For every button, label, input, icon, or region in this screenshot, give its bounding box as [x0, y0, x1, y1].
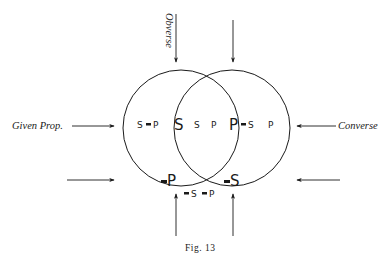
bottom-right-s: S — [230, 172, 240, 190]
big-s-label: S — [174, 116, 184, 134]
left-only-dash — [146, 123, 151, 126]
given-prop-label: Given Prop. — [12, 120, 63, 131]
converse-label: Converse — [338, 120, 378, 131]
right-only-p: P — [268, 120, 274, 130]
right-only-dash — [241, 123, 246, 126]
logic-diagram: Obverse Given Prop. Converse S P S S P P… — [0, 0, 389, 261]
outside-dash-2 — [202, 192, 207, 195]
outside-dash-1 — [184, 192, 189, 195]
obverse-label: Obverse — [164, 13, 175, 48]
left-only-p: P — [153, 120, 159, 130]
big-p-label: P — [229, 116, 238, 134]
right-only-s: S — [248, 120, 254, 130]
outside-s: S — [191, 189, 197, 199]
middle-p: P — [211, 120, 217, 130]
figure-caption: Fig. 13 — [185, 243, 215, 253]
left-only-s: S — [137, 120, 143, 130]
outside-p: P — [209, 189, 215, 199]
bottom-left-p: P — [167, 172, 176, 190]
middle-s: S — [194, 120, 200, 130]
